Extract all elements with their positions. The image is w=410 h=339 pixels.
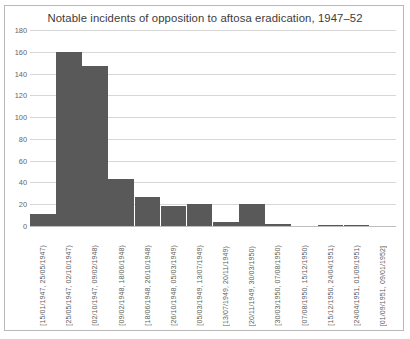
y-tick-label-40: 40 <box>5 178 27 187</box>
bar <box>82 66 108 226</box>
bar <box>56 52 82 226</box>
x-tick-label: [05/03/1949, 13/07/1949) <box>196 245 203 326</box>
bar <box>318 225 344 226</box>
x-tick-label: [18/06/1948, 26/10/1948) <box>144 245 151 326</box>
bar <box>187 204 213 226</box>
x-tick-label: [02/10/1947, 09/02/1948) <box>91 245 98 326</box>
bars-layer <box>30 30 396 226</box>
y-tick-label-160: 160 <box>5 47 27 56</box>
y-tick-label-100: 100 <box>5 113 27 122</box>
gridline-0 <box>30 226 396 227</box>
y-tick-label-20: 20 <box>5 200 27 209</box>
y-tick-label-180: 180 <box>5 26 27 35</box>
y-tick-label-140: 140 <box>5 69 27 78</box>
y-tick-label-0: 0 <box>5 222 27 231</box>
y-tick-label-80: 80 <box>5 134 27 143</box>
x-tick-label: [13/07/1949, 20/11/1949) <box>222 246 229 326</box>
y-axis-tick-labels: 020406080100120140160180 <box>5 30 27 226</box>
x-tick-label: [25/05/1947, 02/10/1947) <box>65 245 72 326</box>
chart-title: Notable incidents of opposition to aftos… <box>5 12 405 24</box>
x-tick-label: [09/02/1948, 18/06/1948) <box>118 245 125 326</box>
bar <box>213 222 239 226</box>
x-tick-label: [15/01/1947, 25/05/1947) <box>39 245 46 326</box>
bar <box>239 204 265 226</box>
x-tick-label: [01/09/1951, 09/01/1952] <box>379 246 386 326</box>
bar <box>161 206 187 226</box>
x-axis-tick-labels: [15/01/1947, 25/05/1947)[25/05/1947, 02/… <box>30 228 396 326</box>
y-tick-label-120: 120 <box>5 91 27 100</box>
bar <box>108 179 134 226</box>
plot-area <box>30 30 396 226</box>
y-tick-label-60: 60 <box>5 156 27 165</box>
x-tick-label: [26/10/1948, 05/03/1949) <box>170 245 177 326</box>
x-tick-label: [15/12/1950, 24/04/1951) <box>327 245 334 326</box>
bar <box>135 197 161 226</box>
x-tick-label: [20/11/1949, 30/03/1950) <box>248 246 255 326</box>
x-tick-label: [30/03/1950, 07/08/1950) <box>274 245 281 326</box>
bar <box>265 224 291 226</box>
x-tick-label: [07/08/1950, 15/12/1950) <box>301 245 308 326</box>
chart-frame: Notable incidents of opposition to aftos… <box>4 5 404 331</box>
bar <box>30 214 56 226</box>
bar <box>344 225 370 226</box>
x-tick-label: [24/04/1951, 01/09/1951) <box>353 245 360 326</box>
